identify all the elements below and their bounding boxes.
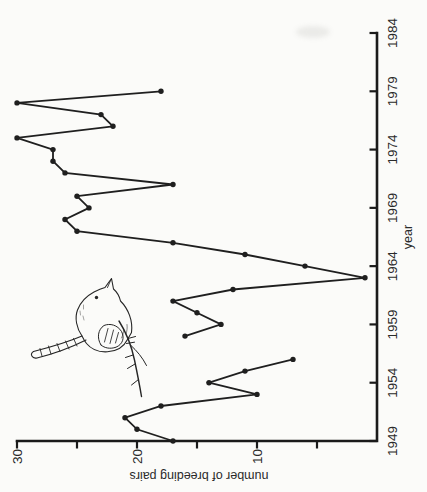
data-point [74, 194, 79, 199]
data-point [362, 275, 367, 280]
data-point [74, 229, 79, 234]
axes-group: 19491954195919641969197419791984102030 [10, 17, 400, 464]
data-point [50, 147, 55, 152]
data-point [86, 205, 91, 210]
y-axis-title: number of breeding pairs [130, 469, 269, 483]
data-point [242, 252, 247, 257]
data-point [290, 357, 295, 362]
year-tick-label: 1964 [385, 251, 400, 282]
breeding-pairs-line [17, 91, 365, 336]
data-point [62, 170, 67, 175]
data-series-group [14, 89, 367, 444]
pairs-tick-label: 30 [10, 449, 25, 464]
data-point [302, 263, 307, 268]
data-point [182, 333, 187, 338]
data-point [134, 427, 139, 432]
data-point [254, 392, 259, 397]
data-point [170, 438, 175, 443]
year-tick-label: 1954 [385, 367, 400, 398]
data-point [170, 298, 175, 303]
rotated-chart-container: 19491954195919641969197419791984102030 y… [0, 0, 427, 492]
data-point [98, 112, 103, 117]
data-point [242, 368, 247, 373]
scanned-figure-page: 19491954195919641969197419791984102030 y… [0, 0, 427, 492]
wren-body-outline [76, 279, 132, 352]
data-point [14, 135, 19, 140]
data-point [170, 182, 175, 187]
data-point [230, 287, 235, 292]
wren-illustration [32, 279, 147, 397]
wren-wing [98, 324, 123, 348]
wren-tail-hatching [40, 339, 77, 357]
year-tick-label: 1969 [385, 193, 400, 223]
data-point [170, 240, 175, 245]
breeding-pairs-line [125, 359, 293, 441]
pairs-tick-label: 10 [250, 449, 265, 464]
data-point [158, 403, 163, 408]
wren-head-stipple [80, 305, 84, 320]
x-axis-title: year [401, 225, 415, 249]
year-tick-label: 1984 [385, 17, 400, 48]
data-point [158, 89, 163, 94]
pairs-tick-label: 20 [130, 449, 145, 464]
year-tick-label: 1959 [385, 309, 400, 339]
data-point [206, 380, 211, 385]
data-point [122, 415, 127, 420]
data-point [62, 217, 67, 222]
data-point [110, 124, 115, 129]
year-tick-label: 1979 [385, 76, 400, 106]
data-point [194, 310, 199, 315]
wren-wing-barring [105, 329, 119, 344]
scan-smudge [296, 26, 330, 38]
data-point [50, 159, 55, 164]
wren-eye [95, 296, 98, 299]
data-point [14, 100, 19, 105]
axis-lines [17, 33, 377, 441]
breeding-pairs-chart: 19491954195919641969197419791984102030 y… [0, 0, 427, 492]
data-point [218, 322, 223, 327]
year-tick-label: 1974 [385, 134, 400, 165]
year-tick-label: 1949 [385, 426, 400, 456]
